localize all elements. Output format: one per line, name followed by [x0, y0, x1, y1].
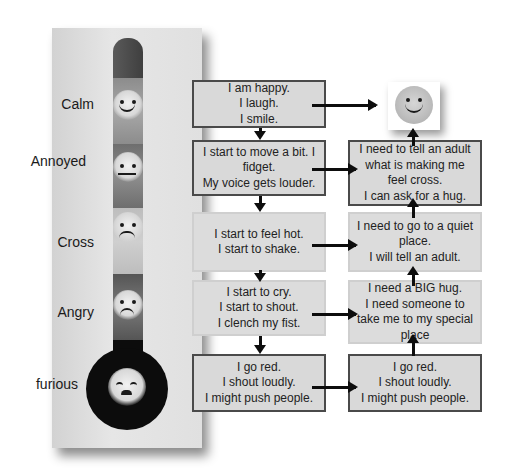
arrow-right-icon: [312, 244, 356, 247]
arrow-down-icon: [259, 336, 262, 350]
level-label-angry: Angry: [14, 304, 94, 320]
feeling-text: I start to move a bit. I: [194, 145, 324, 161]
feeling-box-calm: I am happy. I laugh. I smile.: [192, 80, 326, 128]
neutral-face-icon: [113, 152, 143, 182]
feeling-box-annoyed: I start to move a bit. I fidget. My voic…: [192, 140, 326, 196]
arrow-down-icon: [259, 196, 262, 208]
strategy-text: I need someone to: [350, 297, 480, 313]
strategy-box-cross: I need to go to a quiet place. I will te…: [348, 212, 482, 272]
feeling-text: I laugh.: [194, 96, 324, 112]
arrow-right-icon: [312, 386, 356, 389]
strategy-text: feel cross.: [350, 173, 480, 189]
feeling-text: I start to feel hot.: [194, 227, 324, 243]
level-label-annoyed: Annoyed: [0, 153, 86, 169]
strategy-box-furious: I go red. I shout loudly. I might push p…: [348, 354, 482, 412]
feeling-text: I start to cry.: [194, 285, 324, 301]
strategy-text: place.: [350, 234, 480, 250]
strategy-box-annoyed: I need to tell an adult what is making m…: [348, 140, 482, 206]
arrow-up-icon: [412, 132, 415, 146]
feeling-text: I smile.: [194, 112, 324, 128]
goal-smiley: [388, 82, 440, 130]
arrow-up-icon: [412, 270, 415, 286]
feeling-box-furious: I go red. I shout loudly. I might push p…: [192, 354, 326, 412]
arrow-up-icon: [412, 202, 415, 218]
feeling-text: I clench my fist.: [194, 316, 324, 332]
slight-frown-face-icon: [113, 212, 143, 242]
thermometer-segment-annoyed: [113, 144, 143, 208]
feeling-text: My voice gets louder.: [194, 176, 324, 192]
strategy-text: what is making me: [350, 158, 480, 174]
strategy-text: I need a BIG hug.: [350, 281, 480, 297]
thermometer-segment-cross: [113, 208, 143, 274]
happy-face-icon: [113, 90, 143, 120]
arrow-right-icon: [312, 168, 356, 171]
strategy-text: I need to go to a quiet: [350, 219, 480, 235]
feeling-text: fidget.: [194, 160, 324, 176]
thermometer-segment-calm: [113, 78, 143, 144]
strategy-text: I go red.: [350, 360, 480, 376]
thermometer-top: [113, 38, 143, 78]
arrow-down-icon: [259, 270, 262, 278]
strategy-text: I will tell an adult.: [350, 250, 480, 266]
thermometer-segment-angry: [113, 274, 143, 340]
feeling-box-angry: I start to cry. I start to shout. I clen…: [192, 280, 326, 336]
furious-face-icon: [108, 368, 146, 406]
arrow-up-icon: [412, 338, 415, 356]
strategy-text: I shout loudly.: [350, 375, 480, 391]
strategy-text: I might push people.: [350, 391, 480, 407]
arrow-down-icon: [259, 128, 262, 136]
feeling-text: I shout loudly.: [194, 375, 324, 391]
thermometer-bulb: [86, 348, 168, 430]
strategy-text: I need to tell an adult: [350, 142, 480, 158]
level-label-furious: furious: [0, 376, 78, 392]
feeling-text: I go red.: [194, 360, 324, 376]
feeling-box-cross: I start to feel hot. I start to shake.: [192, 212, 326, 272]
arrow-right-icon: [312, 104, 376, 107]
sad-face-icon: [113, 290, 143, 320]
feeling-text: I start to shout.: [194, 300, 324, 316]
arrow-right-icon: [312, 313, 356, 316]
strategy-text: take me to my special: [350, 312, 480, 328]
feeling-text: I might push people.: [194, 391, 324, 407]
smiley-face-icon: [395, 86, 433, 124]
level-label-calm: Calm: [14, 96, 94, 112]
feeling-text: I am happy.: [194, 81, 324, 97]
level-label-cross: Cross: [14, 234, 94, 250]
feeling-text: I start to shake.: [194, 242, 324, 258]
